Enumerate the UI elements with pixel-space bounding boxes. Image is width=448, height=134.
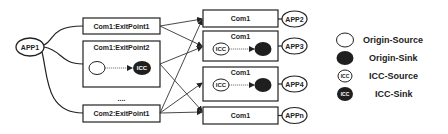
target-box-app4: Com1 ICC APP4 (203, 67, 307, 101)
svg-text:Com1: Com1 (231, 33, 251, 40)
curve-to-exitpoint1 (44, 26, 83, 45)
exitpoint-label: Com1:ExitPoint2 (93, 44, 149, 51)
origin-sink-icon (255, 42, 272, 56)
legend-item-origin-sink: Origin-Sink (337, 51, 419, 65)
svg-text:ICC: ICC (216, 46, 227, 52)
target-box-app2: Com1 APP2 (203, 10, 307, 27)
svg-text:ICC: ICC (341, 91, 350, 97)
exitpoint-box-3: Com2:ExitPoint1 (83, 105, 160, 122)
target-box-appn: Com1 APPn (203, 107, 307, 124)
app-label: APP3 (285, 43, 303, 50)
svg-text:ICC-Source: ICC-Source (369, 71, 418, 81)
app1-node: APP1 (16, 38, 44, 56)
cross-connections (160, 19, 202, 113)
app1-label: APP1 (21, 44, 39, 51)
svg-text:ICC: ICC (216, 82, 227, 88)
app1-connections (42, 26, 83, 113)
svg-text:Origin-Source: Origin-Source (363, 35, 423, 45)
curve-to-exitpoint2 (44, 47, 83, 64)
legend-item-icc-sink: ICC ICC-Sink (337, 87, 413, 101)
exitpoint-box-2: Com1:ExitPoint2 ICC (83, 41, 160, 87)
svg-text:Origin-Sink: Origin-Sink (369, 53, 418, 63)
legend-item-icc-source: ICC ICC-Source (338, 70, 418, 82)
origin-sink-icon (255, 78, 272, 92)
app-label: APP2 (285, 16, 303, 23)
exitpoint-box-1: Com1:ExitPoint1 (83, 18, 160, 34)
icc-flow-diagram: APP1 Com1:ExitPoint1 Com1:ExitPoint2 ICC… (0, 0, 448, 134)
origin-source-icon (337, 33, 354, 47)
exitpoint-label: Com2:ExitPoint1 (93, 110, 149, 117)
app-label: APPn (285, 112, 304, 119)
legend: Origin-Source Origin-Sink ICC ICC-Source… (337, 33, 424, 101)
ellipsis: .... (118, 95, 126, 102)
target-box-app3: Com1 ICC APP3 (203, 31, 307, 61)
app-label: APP4 (285, 81, 303, 88)
origin-sink-icon (337, 51, 354, 65)
svg-text:ICC: ICC (137, 65, 148, 71)
svg-text:Com1: Com1 (231, 112, 251, 119)
svg-text:Com1: Com1 (231, 15, 251, 22)
svg-text:Com1: Com1 (231, 69, 251, 76)
exitpoint-label: Com1:ExitPoint1 (93, 23, 149, 30)
svg-text:ICC-Sink: ICC-Sink (375, 89, 413, 99)
curve-to-exitpoint3 (42, 52, 83, 113)
origin-source-icon (89, 62, 105, 75)
legend-item-origin-source: Origin-Source (337, 33, 424, 47)
svg-text:ICC: ICC (341, 73, 350, 79)
